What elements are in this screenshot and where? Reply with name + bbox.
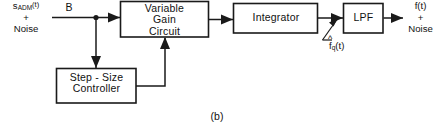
- input-signal-line1: sADM(t): [13, 0, 39, 11]
- input-signal-arg: (t): [32, 0, 39, 9]
- label-branch-b: B: [58, 2, 80, 14]
- feedback-arg: (t): [335, 40, 344, 51]
- block-label-integrator: Integrator: [234, 12, 318, 23]
- figure-caption: (b): [195, 111, 239, 123]
- label-output-noise: Noise: [400, 24, 441, 35]
- label-input-noise: Noise: [0, 24, 52, 35]
- label-input-signal: sADM(t): [0, 1, 52, 12]
- arrow-down-icon-controller: [91, 56, 101, 68]
- label-output-signal: f(t): [400, 1, 441, 12]
- block-label-step-size-controller: Step - Size Controller: [57, 72, 136, 95]
- block-label-variable-gain-circuit: Variable Gain Circuit: [120, 3, 209, 37]
- arrow-up-icon-feedback-vgc: [160, 37, 170, 49]
- arrow-right-icon-vgc-integrator: [221, 15, 233, 25]
- label-feedback-fq: ^fq(t): [329, 41, 385, 52]
- block-label-lpf: LPF: [344, 12, 383, 23]
- block-diagram-figure: Variable Gain Circuit Integrator LPF Ste…: [0, 0, 441, 129]
- wire-controller-to-vgc-feedback: [136, 38, 165, 86]
- input-signal-subscript: ADM: [18, 5, 32, 12]
- hat-accent-icon: ^: [328, 35, 332, 44]
- feedback-f-hat-group: ^f: [329, 41, 332, 52]
- arrow-right-icon-input-vgc: [108, 13, 120, 23]
